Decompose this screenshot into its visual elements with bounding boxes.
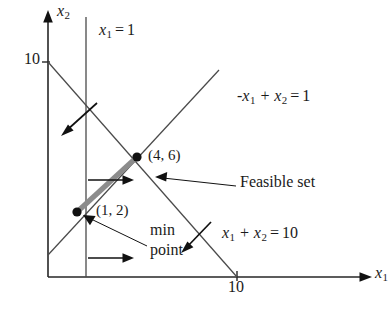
constraint-label-x1-equals-1: x1=1	[99, 22, 135, 40]
constraint-line-sum-equals-10	[48, 62, 237, 277]
constraint-label-sum-equals-10: x1+ x2=10	[222, 225, 298, 243]
y-axis-arrowhead	[43, 10, 53, 23]
vertex-label-upper: (4, 6)	[148, 148, 181, 164]
min-point-label-line1: min	[150, 222, 175, 239]
feasible-set-label: Feasible set	[240, 174, 315, 191]
min-point-label-line2: point	[150, 242, 183, 259]
x-axis	[48, 271, 372, 282]
min-point-leader	[83, 215, 147, 246]
normal-arrow-x1-constraint-lower	[88, 253, 134, 263]
vertex-marker-upper	[132, 152, 141, 161]
x-axis-tick-label-10: 10	[228, 279, 244, 296]
vertex-label-min: (1, 2)	[96, 203, 129, 219]
normal-arrow-neg-constraint	[181, 222, 211, 253]
normal-arrow-sum-constraint	[61, 103, 97, 136]
y-axis	[42, 10, 53, 277]
feasible-set-leader	[155, 172, 236, 186]
vertex-marker-min	[72, 207, 81, 216]
figure-canvas: x2 x1 10 10 x1=1 -x1+ x2=1 x1+ x2=10 (4,…	[0, 0, 390, 311]
x-axis-label: x1	[375, 265, 388, 283]
x-axis-arrowhead	[360, 272, 373, 282]
y-axis-tick-label-10: 10	[24, 51, 40, 68]
y-axis-label: x2	[57, 3, 70, 21]
constraint-label-neg-x1-plus-x2-equals-1: -x1+ x2=1	[237, 88, 310, 106]
diagram-svg	[0, 0, 390, 311]
